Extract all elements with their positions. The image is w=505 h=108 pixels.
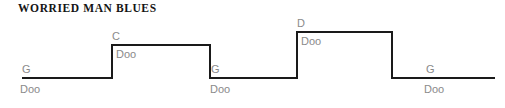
- chord-label-g1: G: [22, 64, 31, 75]
- chord-step-line: [22, 32, 495, 78]
- song-chord-chart: WORRIED MAN BLUES G C G D G Doo Doo Doo …: [0, 0, 505, 108]
- chord-label-g3: G: [426, 64, 435, 75]
- chord-label-g2: G: [211, 64, 220, 75]
- chord-label-d: D: [297, 18, 305, 29]
- lyric-label-3: Doo: [210, 84, 230, 95]
- chord-label-c: C: [112, 31, 120, 42]
- lyric-label-5: Doo: [424, 84, 444, 95]
- lyric-label-2: Doo: [116, 49, 136, 60]
- lyric-label-4: Doo: [301, 36, 321, 47]
- lyric-label-1: Doo: [20, 84, 40, 95]
